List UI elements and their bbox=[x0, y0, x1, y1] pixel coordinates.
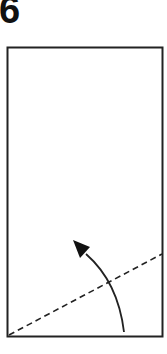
paper-rectangle bbox=[8, 48, 163, 337]
fold-diagram bbox=[0, 0, 167, 354]
